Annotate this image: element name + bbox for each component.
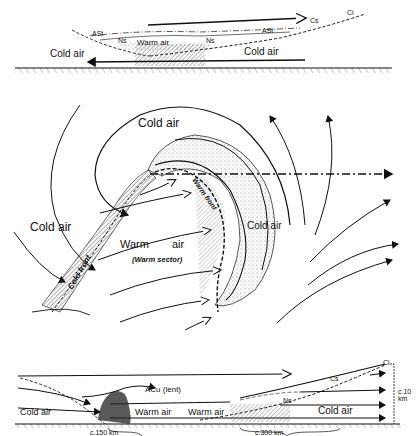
label-cold-air-left: Cold air	[50, 48, 85, 59]
label-cold-air-left-bottom: Cold air	[20, 407, 51, 417]
cold-front-surface-bottom	[20, 378, 105, 424]
warm-front-upper-line	[240, 364, 385, 398]
bottom-cross-section: Cold air Warm air Warm air Cold air ACu …	[15, 359, 411, 436]
label-warm-sector: (Warm sector)	[132, 255, 183, 264]
label-cs-bottom: Cs	[330, 375, 339, 382]
label-warm: Warm	[120, 238, 149, 250]
upper-flow-arrow	[148, 18, 305, 25]
label-ci: Ci	[347, 9, 354, 16]
label-warm-air: Warm air	[137, 38, 169, 47]
label-cs: Cs	[310, 17, 319, 24]
ground-strip	[15, 68, 390, 73]
label-air: air	[172, 238, 185, 250]
label-scale-right: c.300 km	[255, 429, 284, 436]
height-bracket	[390, 364, 394, 424]
cold-air-flow-1	[18, 388, 90, 404]
label-height-1: c.10	[398, 388, 411, 395]
warm-sector-arrow-5	[120, 300, 208, 322]
label-warm-air-1: Warm air	[135, 407, 171, 417]
label-ast-left: ASt	[92, 30, 103, 37]
cumulonimbus-cloud	[98, 391, 131, 424]
warm-sector-arrow-6	[185, 318, 210, 330]
label-height-2: km	[398, 395, 408, 402]
label-ns-left: Ns	[118, 37, 127, 44]
outflow-arrow-2	[315, 116, 332, 235]
upper-flow-arrow-bottom	[18, 374, 290, 376]
label-cold-air-right: Cold air	[247, 220, 282, 231]
label-warm-air-2: Warm air	[188, 407, 224, 417]
warm-front-surface-bottom	[200, 365, 385, 420]
label-ci-bottom: Ci	[383, 359, 390, 366]
plan-view: Cold air Cold air Cold air Warm air (War…	[14, 105, 398, 330]
label-ns-right: Ns	[206, 37, 215, 44]
label-ns-bottom: Ns	[283, 397, 292, 404]
top-cross-section: Cold air Cold air Warm air ASt ASt Ns Ns…	[15, 9, 392, 73]
label-cold-air-right: Cold air	[244, 46, 279, 57]
outflow-arrow-5	[277, 260, 392, 323]
label-ast-right: ASt	[262, 27, 273, 34]
cold-air-flow-3	[300, 390, 385, 392]
label-scale-left: c.150 km	[90, 429, 119, 436]
cold-airflow-left	[14, 232, 65, 282]
label-cold-air-top: Cold air	[138, 116, 179, 130]
label-acu-lent: ACu (lent)	[145, 385, 181, 394]
label-cold-air-right-bottom: Cold air	[318, 405, 353, 416]
label-cold-air-left: Cold air	[30, 220, 71, 234]
upper-cold-arrow	[370, 373, 385, 375]
frontal-depression-diagram: Cold air Cold air Warm air ASt ASt Ns Ns…	[0, 0, 420, 436]
outflow-arrow-3	[310, 200, 390, 262]
nimbostratus-rain-bottom	[230, 404, 290, 422]
warm-sector-arrow-2	[100, 193, 190, 213]
